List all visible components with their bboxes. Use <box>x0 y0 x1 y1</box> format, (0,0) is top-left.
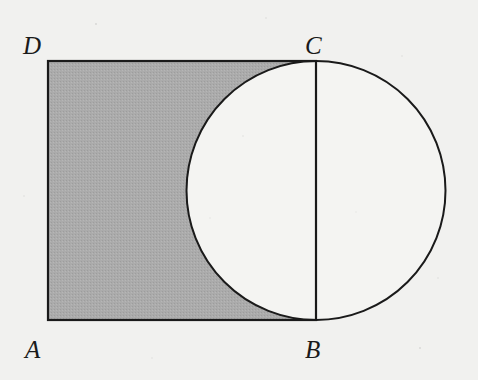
vertex-label-C: C <box>305 33 322 58</box>
shaded-region-overlay <box>48 61 316 320</box>
vertex-label-A: A <box>25 337 40 362</box>
vertex-label-B: B <box>305 337 320 362</box>
geometry-figure: D C A B <box>0 0 478 380</box>
figure-canvas <box>0 0 478 380</box>
vertex-label-D: D <box>23 33 41 58</box>
